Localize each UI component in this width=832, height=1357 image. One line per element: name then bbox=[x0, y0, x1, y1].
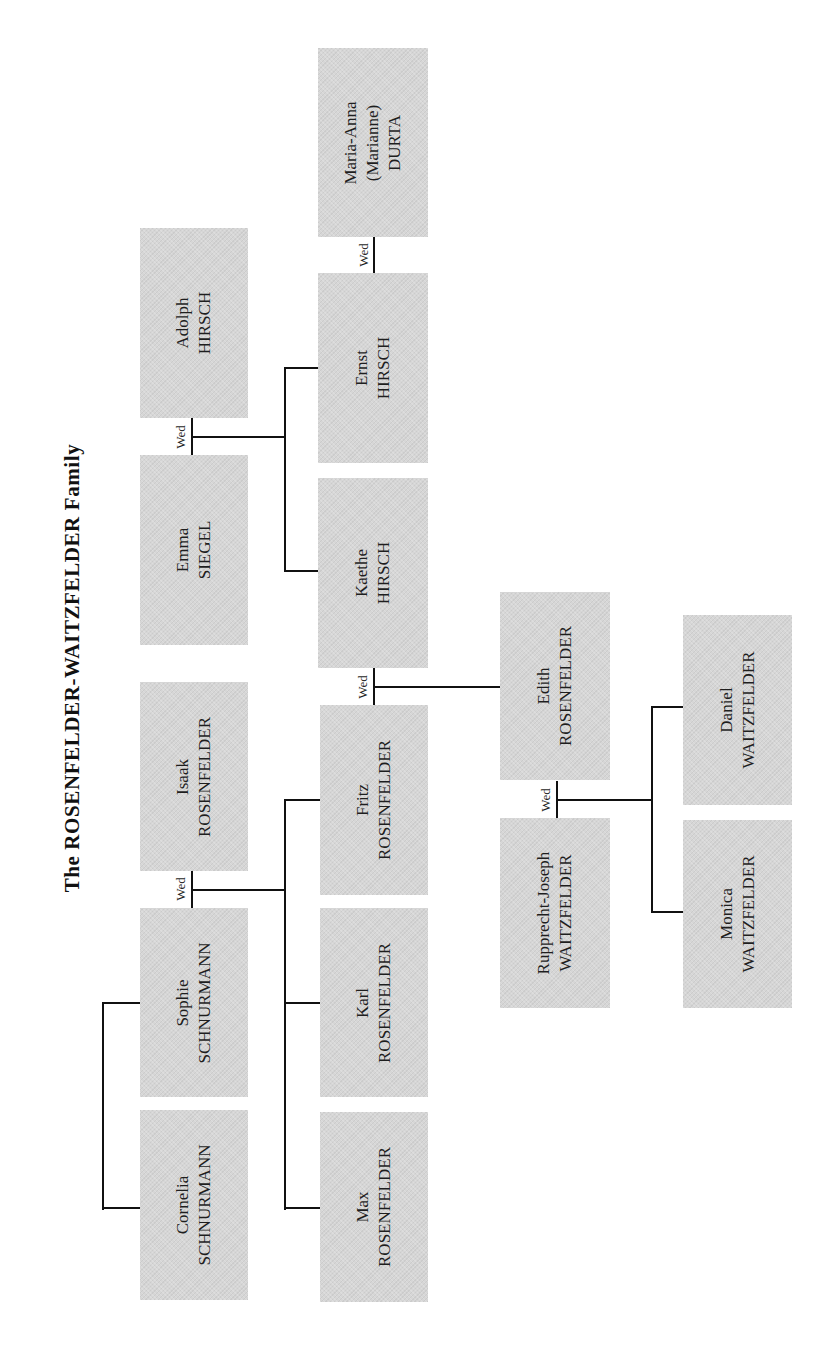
first-name: Monica bbox=[716, 855, 738, 972]
person-name: Adolph HIRSCH bbox=[172, 292, 216, 354]
person-name: Max ROSENFELDER bbox=[352, 1147, 396, 1267]
last-name: ROSENFELDER bbox=[374, 1147, 396, 1267]
person-box-daniel: Daniel WAITZFELDER bbox=[683, 615, 792, 805]
last-name: WAITZFELDER bbox=[555, 852, 577, 975]
children-bracket-line bbox=[651, 706, 653, 913]
last-name: HIRSCH bbox=[373, 542, 395, 604]
last-name: WAITZFELDER bbox=[738, 651, 760, 768]
descent-line bbox=[191, 889, 286, 891]
last-name: DURTA bbox=[384, 101, 406, 184]
last-name: SCHNURMANN bbox=[194, 942, 216, 1063]
diagram-title: The ROSENFELDER-WAITZFELDER Family bbox=[60, 444, 85, 893]
marriage-label: Wed bbox=[173, 877, 189, 901]
person-name: Isaak ROSENFELDER bbox=[172, 717, 216, 837]
person-name: Karl ROSENFELDER bbox=[352, 943, 396, 1063]
first-name: Edith bbox=[533, 626, 555, 746]
person-name: Rupprecht-Joseph WAITZFELDER bbox=[533, 852, 577, 975]
person-box-kaethe: Kaethe HIRSCH bbox=[318, 478, 428, 668]
person-box-ernst: Ernst HIRSCH bbox=[318, 273, 428, 463]
person-box-fritz: Fritz ROSENFELDER bbox=[320, 705, 428, 895]
person-box-isaak: Isaak ROSENFELDER bbox=[140, 682, 248, 871]
person-box-karl: Karl ROSENFELDER bbox=[320, 908, 428, 1097]
marriage-label: Wed bbox=[356, 243, 372, 267]
person-name: Sophie SCHNURMANN bbox=[172, 942, 216, 1063]
person-name: Daniel WAITZFELDER bbox=[716, 651, 760, 768]
person-name: Cornelia SCHNURMANN bbox=[172, 1145, 216, 1266]
last-name: HIRSCH bbox=[373, 337, 395, 399]
first-name: Ernst bbox=[351, 337, 373, 399]
sibling-connector bbox=[102, 1002, 140, 1004]
first-name: Kaethe bbox=[351, 542, 373, 604]
person-name: Emma SIEGEL bbox=[172, 521, 216, 580]
first-name: Fritz bbox=[352, 740, 374, 860]
first-name: Max bbox=[352, 1147, 374, 1267]
child-connector bbox=[284, 367, 318, 369]
first-name: Maria-Anna bbox=[340, 101, 362, 184]
person-box-adolph: Adolph HIRSCH bbox=[140, 228, 248, 418]
child-connector bbox=[284, 1002, 320, 1004]
person-name: Ernst HIRSCH bbox=[351, 337, 395, 399]
person-box-maria-anna: Maria-Anna (Marianne) DURTA bbox=[318, 48, 428, 237]
child-connector bbox=[284, 570, 318, 572]
person-name: Edith ROSENFELDER bbox=[533, 626, 577, 746]
person-name: Maria-Anna (Marianne) DURTA bbox=[340, 101, 406, 184]
first-name: Karl bbox=[352, 943, 374, 1063]
person-name: Fritz ROSENFELDER bbox=[352, 740, 396, 860]
first-name: Isaak bbox=[172, 717, 194, 837]
children-bracket-line bbox=[284, 367, 286, 572]
family-tree-diagram: The ROSENFELDER-WAITZFELDER Family Corne… bbox=[0, 0, 832, 1357]
last-name: ROSENFELDER bbox=[374, 740, 396, 860]
descent-line bbox=[191, 436, 286, 438]
child-connector bbox=[651, 911, 683, 913]
nickname: (Marianne) bbox=[362, 101, 384, 184]
first-name: Daniel bbox=[716, 651, 738, 768]
person-box-emma: Emma SIEGEL bbox=[140, 455, 248, 645]
last-name: SIEGEL bbox=[194, 521, 216, 580]
marriage-line bbox=[373, 237, 375, 273]
person-box-edith: Edith ROSENFELDER bbox=[500, 592, 610, 780]
descent-line bbox=[373, 686, 500, 688]
first-name: Adolph bbox=[172, 292, 194, 354]
first-name: Emma bbox=[172, 521, 194, 580]
first-name: Sophie bbox=[172, 942, 194, 1063]
child-connector bbox=[651, 706, 683, 708]
last-name: ROSENFELDER bbox=[194, 717, 216, 837]
last-name: ROSENFELDER bbox=[555, 626, 577, 746]
sibling-bracket-line bbox=[102, 1002, 104, 1210]
last-name: SCHNURMANN bbox=[194, 1145, 216, 1266]
last-name: WAITZFELDER bbox=[738, 855, 760, 972]
person-box-monica: Monica WAITZFELDER bbox=[683, 820, 792, 1008]
last-name: HIRSCH bbox=[194, 292, 216, 354]
person-box-cornelia: Cornelia SCHNURMANN bbox=[140, 1110, 248, 1300]
marriage-label: Wed bbox=[355, 675, 371, 699]
person-name: Monica WAITZFELDER bbox=[716, 855, 760, 972]
marriage-label: Wed bbox=[538, 788, 554, 812]
person-name: Kaethe HIRSCH bbox=[351, 542, 395, 604]
marriage-label: Wed bbox=[173, 425, 189, 449]
descent-line bbox=[556, 799, 653, 801]
child-connector bbox=[284, 799, 320, 801]
first-name: Rupprecht-Joseph bbox=[533, 852, 555, 975]
child-connector bbox=[284, 1207, 320, 1209]
sibling-connector bbox=[102, 1207, 140, 1209]
last-name: ROSENFELDER bbox=[374, 943, 396, 1063]
person-box-sophie: Sophie SCHNURMANN bbox=[140, 908, 248, 1097]
person-box-rupprecht: Rupprecht-Joseph WAITZFELDER bbox=[500, 818, 610, 1008]
first-name: Cornelia bbox=[172, 1145, 194, 1266]
person-box-max: Max ROSENFELDER bbox=[320, 1112, 428, 1302]
children-bracket-line bbox=[284, 799, 286, 1210]
